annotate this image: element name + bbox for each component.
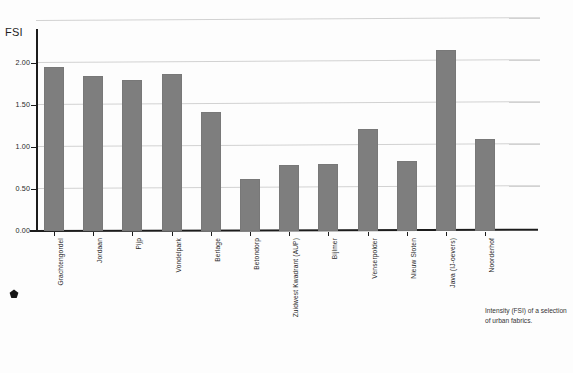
x-axis-category-label: Berlage: [214, 238, 221, 262]
bar: [201, 112, 221, 231]
x-axis-category-label-text: Pijp: [135, 238, 142, 250]
y-axis-tick-label: 1.50: [0, 100, 30, 109]
y-axis-line: [36, 29, 38, 232]
x-axis-category-label: Zuidwest Kwadrant (AUP): [292, 238, 299, 317]
x-axis-tick: [485, 232, 486, 236]
gridline: [36, 101, 540, 105]
x-axis-tick: [446, 232, 447, 236]
x-axis-category-label-text: Vondelpark: [175, 238, 182, 273]
x-axis-category-label-text: Nieuw Sloten: [410, 238, 417, 279]
x-axis-category-label: Betondorp: [253, 238, 260, 270]
x-axis-tick: [289, 232, 290, 236]
x-axis-category-label: Nieuw Sloten: [410, 238, 417, 279]
y-axis-tick: [31, 147, 38, 148]
y-axis-tick-label: 0.50: [0, 184, 30, 193]
y-axis-title: FSI: [5, 26, 23, 38]
y-axis-tick-label-wrap: 0.50: [0, 184, 30, 194]
x-axis-category-label: Bijlmer: [331, 238, 338, 259]
x-axis-category-label: Noorderhof: [488, 238, 495, 273]
y-axis-tick: [31, 189, 38, 190]
y-axis-tick-label-wrap: 0.00: [0, 226, 30, 236]
x-axis-tick: [368, 232, 369, 236]
y-axis-tick-label-wrap: 1.50: [0, 100, 30, 110]
figure-caption: Intensity (FSI) of a selection of urban …: [485, 306, 571, 326]
bar: [397, 161, 417, 231]
x-axis-category-label-text: Bijlmer: [331, 238, 338, 259]
x-axis-category-label: Grachtengordel: [57, 238, 64, 286]
x-axis-category-label-text: Noorderhof: [488, 238, 495, 273]
bar: [44, 67, 64, 231]
chart-page: FSI 0.000.501.001.502.00 GrachtengordelJ…: [0, 0, 573, 373]
y-axis-tick-label: 0.00: [0, 226, 30, 235]
x-axis-category-label-text: Venserpolder: [371, 238, 378, 279]
y-axis-tick-label: 2.00: [0, 58, 30, 67]
x-axis-tick: [172, 232, 173, 236]
y-axis-tick: [31, 63, 38, 64]
x-axis-category-label: Vondelpark: [175, 238, 182, 273]
bar: [279, 165, 299, 231]
x-axis-tick: [54, 232, 55, 236]
x-axis-category-label: Jordaan: [96, 238, 103, 263]
x-axis-category-label-text: Jordaan: [96, 238, 103, 263]
bar: [358, 129, 378, 231]
bar: [162, 74, 182, 231]
bar: [122, 80, 142, 231]
x-axis-tick: [132, 232, 133, 236]
x-axis-category-label: Java (IJ-oevers): [449, 238, 456, 288]
x-axis-tick: [250, 232, 251, 236]
x-axis-category-label: Venserpolder: [371, 238, 378, 279]
gridline: [36, 59, 540, 63]
gridline: [36, 143, 540, 147]
x-axis-category-label-text: Grachtengordel: [57, 238, 64, 286]
x-axis-tick: [93, 232, 94, 236]
x-axis-category-label-text: Java (IJ-oevers): [449, 238, 456, 288]
x-axis-category-label-text: Zuidwest Kwadrant (AUP): [292, 238, 299, 317]
x-axis-category-label: Pijp: [135, 238, 142, 250]
bar: [436, 50, 456, 231]
y-axis-tick: [31, 105, 38, 106]
bar: [240, 179, 260, 231]
y-axis-tick-label-wrap: 2.00: [0, 58, 30, 68]
x-axis-tick: [407, 232, 408, 236]
bar: [475, 139, 495, 231]
x-axis-category-label-text: Berlage: [214, 238, 221, 262]
y-axis-tick-label-wrap: 1.00: [0, 142, 30, 152]
x-axis-tick: [328, 232, 329, 236]
pentagon-marker-icon: [9, 285, 19, 295]
y-axis-tick: [31, 231, 38, 232]
gridline: [36, 17, 540, 21]
bar: [318, 164, 338, 231]
x-axis-tick: [211, 232, 212, 236]
x-axis-category-label-text: Betondorp: [253, 238, 260, 270]
bar: [83, 76, 103, 231]
y-axis-tick-label: 1.00: [0, 142, 30, 151]
